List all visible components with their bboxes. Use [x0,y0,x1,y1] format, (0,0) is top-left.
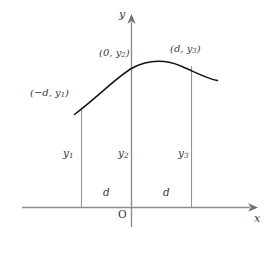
paren-close: ) [65,87,69,98]
point-label-left: (−d, y1) [30,88,69,99]
spacing-label-right: d [163,187,170,198]
point-label-vertex: (0, y2) [99,48,130,59]
origin-label: O [118,209,127,220]
ordinate-label-3: y3 [178,148,188,159]
y-axis-label: y [119,9,125,20]
ordinate-subscript: 1 [69,151,74,160]
spacing-label-left: d [103,187,110,198]
x-axis-label: x [254,213,260,224]
ordinate-label-2: y2 [118,148,128,159]
ordinate-subscript: 2 [124,151,129,160]
diagram-canvas [0,0,273,253]
paren-close: ) [126,47,130,58]
point-label-right: (d, y3) [170,44,201,55]
paren-close: ) [197,43,201,54]
ordinate-subscript: 3 [184,151,189,160]
ordinate-label-1: y1 [63,148,73,159]
parabola-ordinates-figure: y x O (−d, y1) (0, y2) (d, y3) y1 y2 y3 … [0,0,273,253]
parabola-curve [75,62,218,115]
point-x-value: −d [34,87,49,98]
